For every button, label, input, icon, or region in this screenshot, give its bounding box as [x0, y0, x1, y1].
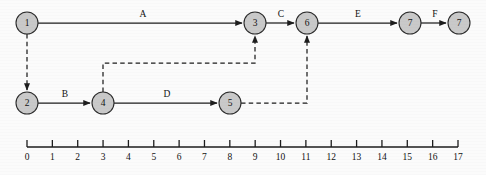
node-4[interactable]: 4 — [92, 92, 114, 114]
node-1-label: 1 — [25, 18, 30, 28]
node-2-label: 2 — [25, 98, 30, 108]
diagram-canvas: A C E F B D 1 3 6 7 — [0, 0, 486, 175]
node-1[interactable]: 1 — [16, 12, 38, 34]
time-axis-ticks — [27, 140, 458, 147]
node-7-second-label: 7 — [457, 18, 462, 28]
node-4-label: 4 — [101, 98, 106, 108]
axis-tick-label-3: 3 — [101, 152, 106, 162]
node-7-second[interactable]: 7 — [448, 12, 470, 34]
edge-label-F: F — [432, 9, 437, 19]
time-axis-tick-labels: 01234567891011121314151617 — [25, 152, 463, 162]
axis-tick-label-8: 8 — [227, 152, 232, 162]
dashed-edge-5-to-6 — [241, 36, 307, 103]
node-group: 1 3 6 7 7 2 4 — [16, 12, 470, 114]
axis-tick-label-4: 4 — [126, 152, 131, 162]
edge-group-solid — [38, 23, 446, 103]
edge-label-D: D — [164, 89, 171, 99]
axis-tick-label-6: 6 — [177, 152, 182, 162]
axis-tick-label-15: 15 — [403, 152, 413, 162]
axis-tick-label-1: 1 — [50, 152, 55, 162]
node-5[interactable]: 5 — [219, 92, 241, 114]
node-6-label: 6 — [305, 18, 310, 28]
axis-tick-label-17: 17 — [453, 152, 463, 162]
axis-tick-label-11: 11 — [301, 152, 310, 162]
network-diagram: A C E F B D 1 3 6 7 — [0, 0, 486, 175]
axis-tick-label-0: 0 — [25, 152, 30, 162]
axis-tick-label-2: 2 — [75, 152, 80, 162]
node-3[interactable]: 3 — [244, 12, 266, 34]
axis-tick-label-10: 10 — [276, 152, 286, 162]
axis-tick-label-7: 7 — [202, 152, 207, 162]
node-2[interactable]: 2 — [16, 92, 38, 114]
edge-label-A: A — [140, 9, 147, 19]
axis-tick-label-13: 13 — [352, 152, 362, 162]
edge-label-C: C — [278, 9, 284, 19]
dashed-edge-4-to-3 — [103, 36, 255, 92]
node-5-label: 5 — [228, 98, 233, 108]
axis-tick-label-5: 5 — [151, 152, 156, 162]
edge-label-B: B — [62, 89, 68, 99]
axis-tick-label-9: 9 — [253, 152, 258, 162]
axis-tick-label-12: 12 — [326, 152, 336, 162]
node-7-first[interactable]: 7 — [399, 12, 421, 34]
edge-label-E: E — [355, 9, 361, 19]
axis-tick-label-16: 16 — [428, 152, 438, 162]
time-axis: 01234567891011121314151617 — [25, 140, 463, 162]
axis-tick-label-14: 14 — [377, 152, 387, 162]
node-7-first-label: 7 — [408, 18, 413, 28]
node-3-label: 3 — [253, 18, 258, 28]
node-6[interactable]: 6 — [296, 12, 318, 34]
